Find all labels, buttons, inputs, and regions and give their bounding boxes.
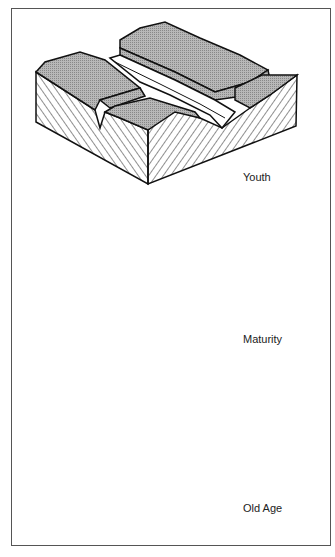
stage-label-maturity: Maturity xyxy=(243,333,282,345)
stage-label-youth: Youth xyxy=(243,171,271,183)
block-diagrams xyxy=(0,0,335,557)
stage-label-old-age: Old Age xyxy=(243,502,282,514)
youth-block xyxy=(36,22,297,184)
